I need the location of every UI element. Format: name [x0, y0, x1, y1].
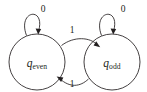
state-label-q-odd-subscript: odd — [109, 62, 121, 71]
transition-label-odd-self-loop: 0 — [121, 5, 126, 15]
state-label-q-odd-base: q — [103, 57, 109, 69]
state-label-q-even-subscript: even — [33, 62, 48, 71]
state-label-q-even: qeven — [27, 54, 48, 70]
transition-label-odd-to-even: 1 — [70, 80, 75, 90]
state-label-q-even-base: q — [27, 57, 33, 69]
state-label-q-odd: qodd — [103, 54, 120, 70]
transition-label-even-to-odd: 1 — [70, 26, 75, 36]
transition-label-even-self-loop: 0 — [41, 5, 46, 15]
finite-state-machine-diagram: qeven qodd 0 0 1 1 — [0, 0, 147, 92]
